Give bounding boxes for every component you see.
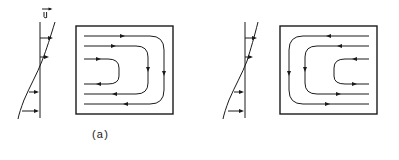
- velocity-arrow-b-2: [245, 55, 253, 59]
- streamline-b-inner: [334, 59, 369, 84]
- streamline-arrow-a-o1: [120, 34, 125, 38]
- velocity-curve-a: [18, 22, 55, 119]
- velocity-arrow-a-1: [40, 36, 53, 40]
- panel-b: (b): [200, 0, 399, 160]
- streamline-a-inner: [84, 59, 119, 84]
- streamline-arrow-b-m2: [303, 67, 307, 72]
- streamline-arrow-a-m3: [112, 92, 117, 96]
- velocity-arrow-b-4: [228, 109, 244, 113]
- streamline-arrow-a-m1: [111, 44, 116, 48]
- streamline-arrow-b-i1: [352, 57, 357, 61]
- streamline-arrow-a-i1: [96, 57, 101, 61]
- streamline-arrow-b-o2: [287, 71, 291, 76]
- velocity-arrow-b-1: [245, 36, 257, 40]
- cavity-a: [76, 26, 173, 114]
- panel-b-graphic: [200, 0, 399, 160]
- streamline-arrow-a-o3: [123, 102, 128, 106]
- panel-a: (a): [0, 0, 199, 160]
- streamline-b-middle: [305, 46, 369, 94]
- streamline-arrow-a-o2: [162, 71, 166, 76]
- streamline-a-middle: [84, 46, 148, 94]
- streamline-arrow-a-i2: [96, 82, 101, 86]
- panel-a-caption: (a): [92, 128, 109, 140]
- velocity-profile-a: [18, 8, 55, 119]
- velocity-profile-b: [223, 22, 258, 119]
- streamline-arrow-a-m2: [146, 67, 150, 72]
- streamline-arrow-b-i2: [352, 82, 357, 86]
- velocity-arrow-a-3: [29, 90, 39, 94]
- cavity-box-b: [280, 26, 377, 114]
- figure-root: (a): [0, 0, 399, 160]
- streamline-arrow-b-o3: [325, 102, 330, 106]
- velocity-vector-label-a: [42, 8, 53, 18]
- velocity-arrow-a-4: [22, 109, 39, 113]
- velocity-arrow-b-3: [234, 90, 244, 94]
- streamline-arrow-b-o1: [326, 34, 331, 38]
- cavity-b: [280, 26, 377, 114]
- streamline-arrow-b-m3: [336, 92, 341, 96]
- cavity-box-a: [76, 26, 173, 114]
- streamline-arrow-b-m1: [337, 44, 342, 48]
- velocity-arrow-a-2: [40, 55, 49, 59]
